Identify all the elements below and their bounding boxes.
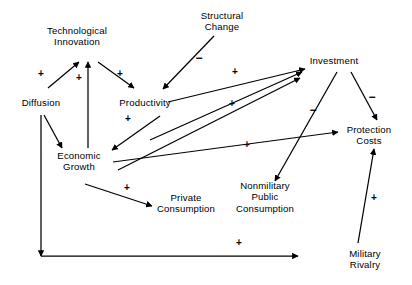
edge-technological_innovation-to-productivity (98, 62, 134, 88)
edge-diffusion-to-technological_innovation (48, 62, 79, 88)
edge-productivity-to-economic_growth (112, 116, 160, 150)
edge-economic_growth-to-investment (150, 72, 302, 140)
edge-structural_change-to-productivity (163, 36, 214, 89)
edge-investment-to-protection_costs (351, 72, 377, 120)
edges-group (41, 36, 377, 256)
edge-diffusion-to-economic_growth (44, 115, 62, 148)
edge-layer (0, 0, 412, 285)
edge-military_rivalry-to-protection_costs (358, 149, 374, 243)
edge-investment-to-nonmilitary_public_consumption (275, 72, 337, 181)
edge-economic_growth-to-private_consumption (85, 184, 152, 206)
edge-economic_growth-to-protection_costs (113, 132, 338, 162)
causal-diagram: Technological InnovationStructural Chang… (0, 0, 412, 285)
